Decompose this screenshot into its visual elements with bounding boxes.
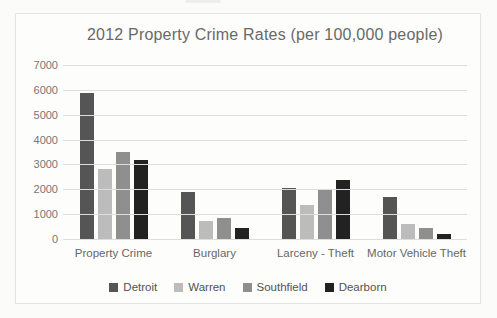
legend-label-southfield: Southfield — [257, 281, 308, 293]
y-tick-label-7000: 7000 — [22, 59, 58, 72]
chart-legend: DetroitWarrenSouthfieldDearborn — [16, 281, 480, 293]
legend-label-detroit: Detroit — [123, 281, 157, 293]
scan-artifact — [185, 0, 221, 3]
bar-southfield-burglary — [217, 218, 231, 240]
x-axis-labels: Property CrimeBurglaryLarceny - TheftMot… — [63, 247, 467, 259]
gridline-2000 — [63, 189, 467, 190]
legend-item-dearborn: Dearborn — [325, 281, 387, 293]
y-tick-label-6000: 6000 — [22, 84, 58, 97]
bar-warren-burglary — [199, 221, 213, 240]
bar-dearborn-property-crime — [134, 160, 148, 240]
bar-warren-larceny-theft — [300, 205, 314, 240]
legend-item-detroit: Detroit — [109, 281, 157, 293]
gridline-5000 — [63, 115, 467, 116]
legend-swatch-warren — [174, 283, 183, 292]
bar-warren-motor-vehicle-theft — [401, 224, 415, 240]
gridline-0 — [63, 239, 467, 240]
legend-swatch-southfield — [243, 283, 252, 292]
gridline-4000 — [63, 140, 467, 141]
legend-item-warren: Warren — [174, 281, 225, 293]
legend-label-warren: Warren — [188, 281, 225, 293]
gridline-6000 — [63, 90, 467, 91]
y-tick-label-0: 0 — [22, 233, 58, 246]
gridline-3000 — [63, 164, 467, 165]
x-axis-label-larceny-theft: Larceny - Theft — [265, 247, 366, 259]
bar-warren-property-crime — [98, 169, 112, 240]
y-tick-label-2000: 2000 — [22, 183, 58, 196]
y-tick-label-3000: 3000 — [22, 158, 58, 171]
x-axis-label-burglary: Burglary — [164, 247, 265, 259]
gridline-1000 — [63, 214, 467, 215]
gridline-7000 — [63, 65, 467, 66]
chart-title: 2012 Property Crime Rates (per 100,000 p… — [58, 26, 472, 44]
legend-item-southfield: Southfield — [243, 281, 308, 293]
x-axis-label-property-crime: Property Crime — [63, 247, 164, 259]
scanned-document-page: 2012 Property Crime Rates (per 100,000 p… — [0, 0, 497, 318]
legend-label-dearborn: Dearborn — [339, 281, 387, 293]
bar-detroit-motor-vehicle-theft — [383, 197, 397, 241]
y-tick-label-1000: 1000 — [22, 208, 58, 221]
plot-area — [63, 66, 467, 240]
bar-detroit-burglary — [181, 192, 195, 240]
y-tick-label-4000: 4000 — [22, 134, 58, 147]
y-tick-label-5000: 5000 — [22, 109, 58, 122]
bar-chart: 2012 Property Crime Rates (per 100,000 p… — [15, 13, 481, 304]
x-axis-label-motor-vehicle-theft: Motor Vehicle Theft — [366, 247, 467, 259]
legend-swatch-detroit — [109, 283, 118, 292]
legend-swatch-dearborn — [325, 283, 334, 292]
